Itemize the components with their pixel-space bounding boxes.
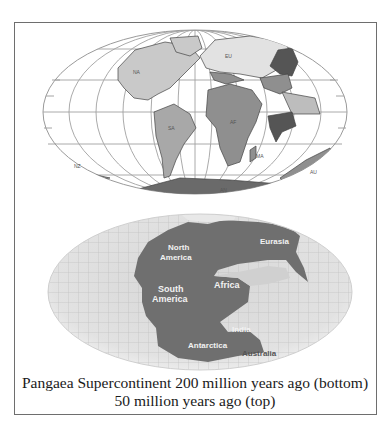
label-na: NA xyxy=(133,69,141,75)
label-north: North xyxy=(168,243,189,252)
label-eurasia: Eurasia xyxy=(260,237,289,246)
label-america-north: America xyxy=(160,253,192,262)
label-india: India xyxy=(232,325,251,334)
label-nz: NZ xyxy=(74,163,81,169)
label-au: AU xyxy=(310,169,317,175)
map-pangaea-200-million-years-ago: North America Eurasia South America Afri… xyxy=(38,212,362,372)
figure-caption-line-1: Pangaea Supercontinent 200 million years… xyxy=(0,373,390,392)
figure-caption-line-2: 50 million years ago (top) xyxy=(0,391,390,410)
label-in: IN xyxy=(278,119,283,125)
label-south: South xyxy=(158,284,184,294)
label-ma: MA xyxy=(256,153,264,159)
map-50-million-years-ago: NA EU SA AF IN AU AN NZ MA xyxy=(30,28,360,200)
label-eu: EU xyxy=(225,53,232,59)
label-sa: SA xyxy=(168,125,175,131)
label-america-south: America xyxy=(152,294,189,304)
label-an: AN xyxy=(220,187,227,193)
label-australia: Australia xyxy=(242,349,277,358)
label-antarctica: Antarctica xyxy=(188,341,228,350)
label-af: AF xyxy=(230,119,236,125)
label-africa: Africa xyxy=(214,280,241,290)
